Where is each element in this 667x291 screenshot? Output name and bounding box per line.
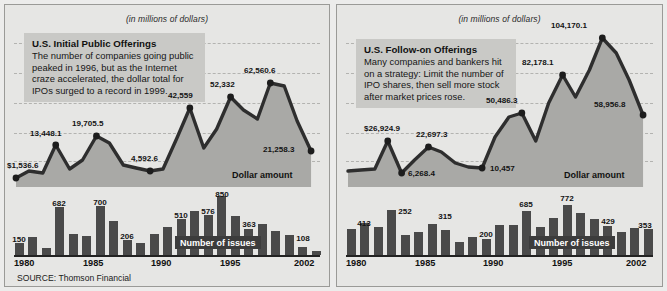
point-label: 22,697.3 [416, 130, 448, 139]
bar [96, 206, 105, 255]
bar-label: 108 [292, 234, 314, 243]
infographic-sheet: (in millions of dollars) U.S. Initial [0, 0, 667, 291]
bar [204, 215, 213, 255]
bar [271, 231, 280, 255]
bar-label: 206 [116, 232, 138, 241]
bar [150, 234, 159, 255]
bar [69, 234, 78, 255]
callout-title: U.S. Follow-on Offerings [364, 44, 508, 55]
point-label: 42,559 [168, 91, 193, 100]
bar [42, 248, 51, 255]
panel-followon: (in millions of dollars) U.S. Follow-o [336, 4, 663, 287]
bar [482, 239, 491, 255]
bar-label: 315 [434, 212, 456, 221]
bar [630, 228, 639, 255]
bar [441, 230, 450, 255]
source-note: SOURCE: Thomson Financial [17, 273, 131, 283]
bar [298, 247, 307, 255]
year-tick: 1985 [415, 258, 435, 268]
bar-label: 700 [89, 198, 111, 207]
bar [468, 237, 477, 255]
year-tick: 1980 [14, 258, 34, 268]
year-tick: 1990 [151, 258, 171, 268]
point-label: 4,592.6 [131, 154, 158, 163]
point-label: 21,258.3 [263, 145, 295, 154]
point-label: 10,457 [490, 164, 515, 173]
x-axis [14, 255, 320, 257]
bar [644, 229, 653, 255]
callout-body: The number of companies going public pea… [32, 50, 197, 96]
bar-label: 850 [211, 190, 233, 199]
bar [617, 232, 626, 255]
bar-label: 429 [597, 217, 619, 226]
point-label: 19,705.5 [72, 119, 104, 128]
bar [347, 229, 356, 255]
bar [136, 243, 145, 255]
year-tick: 2002 [626, 258, 646, 268]
point-label: 50,486.3 [486, 96, 518, 105]
bar [15, 243, 24, 255]
line-chart-followon: U.S. Follow-on Offerings Many companies … [346, 25, 653, 187]
bar [123, 240, 132, 255]
point-label: 104,170.1 [551, 21, 587, 30]
bar [163, 227, 172, 255]
units-note-left: (in millions of dollars) [5, 14, 329, 24]
point-label: 13,448.1 [30, 129, 62, 138]
panel-ipo: (in millions of dollars) U.S. Initial [4, 4, 330, 287]
bar-label: 252 [394, 207, 416, 216]
year-tick: 2002 [294, 258, 314, 268]
point-label: 6,268.4 [408, 169, 435, 178]
point-label: 52,332 [210, 80, 235, 89]
point-label: 62,560.6 [244, 66, 276, 75]
bar [82, 236, 91, 255]
bar-label: 150 [8, 235, 30, 244]
bar-label: 682 [48, 199, 70, 208]
bar [509, 225, 518, 255]
legend-dollar-amount: Dollar amount [564, 170, 625, 180]
bar-chart-ipo: 150 682 700 206 510 576 850 363 108 Numb… [14, 193, 320, 255]
point-label: $26,924.9 [364, 124, 400, 133]
bar-label: 363 [238, 220, 260, 229]
point-label: 58,956.8 [594, 100, 626, 109]
bar-label: 772 [556, 194, 578, 203]
bar-label: 510 [170, 211, 192, 220]
legend-number-of-issues: Number of issues [529, 236, 615, 249]
year-tick-1995: 1995 [220, 258, 240, 268]
point-label: 82,178.1 [522, 58, 554, 67]
bar [414, 232, 423, 255]
bar-chart-followon: 413 252 315 200 685 772 429 353 Number o… [346, 193, 653, 255]
bar-label: 685 [515, 200, 537, 209]
bar [455, 242, 464, 255]
bar [428, 224, 437, 255]
units-note-right: (in millions of dollars) [337, 14, 662, 24]
bar [55, 207, 64, 255]
legend-dollar-amount: Dollar amount [232, 170, 293, 180]
year-tick: 1985 [83, 258, 103, 268]
bar-label: 413 [353, 219, 375, 228]
bar-label: 576 [197, 207, 219, 216]
bar-label: 200 [475, 230, 497, 239]
callout-title: U.S. Initial Public Offerings [32, 38, 197, 49]
bar [387, 210, 396, 255]
line-chart-ipo: U.S. Initial Public Offerings The number… [14, 25, 320, 187]
point-label: $1,536.6 [7, 161, 39, 170]
bar-label: 353 [634, 221, 656, 230]
legend-number-of-issues: Number of issues [175, 236, 261, 249]
bar [401, 235, 410, 255]
year-tick: 1990 [483, 258, 503, 268]
bar [374, 227, 383, 255]
year-tick-1995: 1995 [552, 258, 572, 268]
x-axis [346, 255, 653, 257]
year-tick: 1980 [346, 258, 366, 268]
